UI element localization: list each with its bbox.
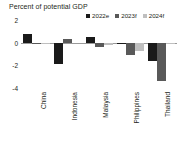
legend-swatch-2024f xyxy=(143,14,147,18)
bar-china-2023f[interactable] xyxy=(32,43,41,45)
x-axis-label-thailand: Thailand xyxy=(164,92,171,117)
bar-slot-philippines-2023f xyxy=(126,20,135,88)
legend-item-2023f: 2023f xyxy=(115,13,136,19)
bar-malaysia-2023f[interactable] xyxy=(95,43,104,48)
bar-slot-china-2023f xyxy=(32,20,41,88)
bar-group-indonesia xyxy=(54,20,81,88)
bar-slot-china-2022e xyxy=(23,20,32,88)
legend-item-2024f: 2024f xyxy=(143,13,164,19)
bar-group-thailand xyxy=(148,20,175,88)
output-gap-bar-chart: Percent of potential GDP 2022e 2023f 202… xyxy=(0,0,182,148)
bar-group-china xyxy=(23,20,50,88)
x-axis-label-china: China xyxy=(40,92,47,109)
bar-philippines-2024f[interactable] xyxy=(135,43,144,52)
bar-indonesia-2022e[interactable] xyxy=(54,43,63,65)
x-axis-label-malaysia: Malaysia xyxy=(102,92,109,118)
plot-area: 20-2-4 xyxy=(21,20,177,88)
y-axis-tick-neg4: -4 xyxy=(12,85,18,92)
x-axis-label-indonesia: Indonesia xyxy=(71,92,78,120)
y-axis-tick-0: 0 xyxy=(14,39,18,46)
legend-swatch-2023f xyxy=(115,14,119,18)
legend-label-2024f: 2024f xyxy=(149,13,164,19)
bar-slot-indonesia-2022e xyxy=(54,20,63,88)
legend-swatch-2022e xyxy=(86,14,90,18)
legend-label-2022e: 2022e xyxy=(92,13,109,19)
bar-thailand-2022e[interactable] xyxy=(148,43,157,61)
bar-slot-malaysia-2022e xyxy=(86,20,95,88)
bar-slot-indonesia-2024f xyxy=(72,20,81,88)
bar-slot-philippines-2024f xyxy=(135,20,144,88)
bar-malaysia-2024f[interactable] xyxy=(104,43,113,45)
bar-indonesia-2023f[interactable] xyxy=(63,39,72,43)
bar-malaysia-2022e[interactable] xyxy=(86,37,95,43)
bar-slot-indonesia-2023f xyxy=(63,20,72,88)
bar-thailand-2024f[interactable] xyxy=(166,43,175,44)
bar-slot-thailand-2023f xyxy=(157,20,166,88)
bar-slot-china-2024f xyxy=(41,20,50,88)
y-axis-tick-neg2: -2 xyxy=(12,62,18,69)
legend-item-2022e: 2022e xyxy=(86,13,109,19)
chart-legend: 2022e 2023f 2024f xyxy=(86,13,164,19)
bar-group-philippines xyxy=(117,20,144,88)
bar-slot-malaysia-2023f xyxy=(95,20,104,88)
bar-slot-thailand-2024f xyxy=(166,20,175,88)
bar-slot-thailand-2022e xyxy=(148,20,157,88)
bar-group-malaysia xyxy=(86,20,113,88)
bar-china-2022e[interactable] xyxy=(23,34,32,43)
bar-philippines-2022e[interactable] xyxy=(117,43,126,44)
y-axis-tick-2: 2 xyxy=(14,17,18,24)
bar-thailand-2023f[interactable] xyxy=(157,43,166,82)
x-axis-label-philippines: Philippines xyxy=(133,92,140,123)
legend-label-2023f: 2023f xyxy=(121,13,136,19)
bar-slot-malaysia-2024f xyxy=(104,20,113,88)
chart-title: Percent of potential GDP xyxy=(9,3,88,10)
bar-china-2024f[interactable] xyxy=(41,43,50,44)
bar-slot-philippines-2022e xyxy=(117,20,126,88)
bar-philippines-2023f[interactable] xyxy=(126,43,135,55)
